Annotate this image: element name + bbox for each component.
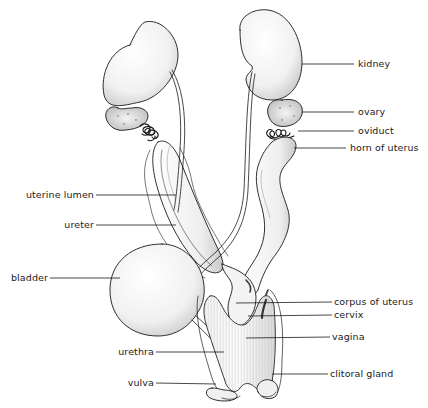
label-clitoral-gland: clitoral gland (330, 368, 393, 379)
label-uterine-lumen: uterine lumen (26, 189, 94, 200)
leader-vulva (156, 383, 216, 384)
right-uterine-horn (242, 137, 296, 297)
label-bladder: bladder (11, 272, 48, 283)
left-oviduct (140, 124, 158, 141)
label-oviduct: oviduct (358, 125, 394, 136)
left-ovary (106, 107, 148, 131)
label-corpus-of-uterus: corpus of uterus (334, 296, 413, 307)
reproductive-tract-diagram: kidney ovary oviduct horn of uterus corp… (0, 0, 428, 408)
label-urethra: urethra (118, 346, 154, 357)
label-horn-of-uterus: horn of uterus (350, 142, 419, 153)
label-vagina: vagina (332, 331, 365, 342)
bladder (110, 244, 204, 336)
right-ovary (268, 99, 303, 126)
left-kidney (103, 21, 178, 105)
label-ureter: ureter (64, 219, 94, 230)
right-kidney (240, 10, 302, 100)
label-vulva: vulva (128, 377, 154, 388)
label-kidney: kidney (358, 58, 390, 69)
label-ovary: ovary (358, 106, 385, 117)
clitoral-gland (257, 380, 278, 399)
label-cervix: cervix (334, 309, 363, 320)
